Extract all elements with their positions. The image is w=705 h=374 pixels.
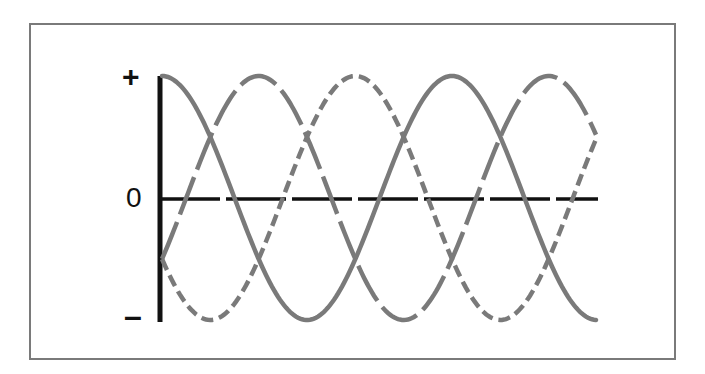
- waveform-plot: [0, 0, 705, 374]
